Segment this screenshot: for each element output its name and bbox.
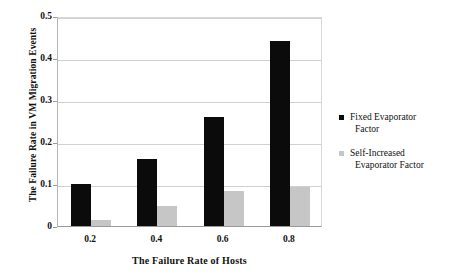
bar-self-increased-evaporator-factor bbox=[290, 187, 310, 226]
y-tick-label: 0.2 bbox=[26, 137, 52, 147]
legend-swatch-icon bbox=[339, 151, 344, 156]
legend-swatch-icon bbox=[339, 115, 344, 120]
y-tick-mark bbox=[53, 227, 57, 228]
y-tick-label: 0.4 bbox=[26, 53, 52, 63]
legend: Fixed EvaporatorFactorSelf-IncreasedEvap… bbox=[339, 112, 459, 184]
x-tick-label: 0.6 bbox=[193, 234, 253, 244]
legend-label: Fixed EvaporatorFactor bbox=[350, 112, 459, 135]
bar-chart: The Failure Rate in VM Migration Events … bbox=[0, 0, 462, 278]
x-tick-label: 0.4 bbox=[126, 234, 186, 244]
bar-self-increased-evaporator-factor bbox=[224, 191, 244, 226]
bar-self-increased-evaporator-factor bbox=[91, 220, 111, 226]
y-tick-label: 0.5 bbox=[26, 11, 52, 21]
x-tick-label: 0.8 bbox=[259, 234, 319, 244]
legend-label-line1: Fixed Evaporator bbox=[350, 112, 416, 122]
x-tick-label: 0.2 bbox=[60, 234, 120, 244]
bar-fixed-evaporator-factor bbox=[204, 117, 224, 226]
y-tick-label: 0 bbox=[26, 221, 52, 231]
legend-entry: Self-IncreasedEvaporator Factor bbox=[339, 148, 459, 171]
bar-group bbox=[191, 18, 257, 226]
bar-group bbox=[124, 18, 190, 226]
legend-label-line2: Factor bbox=[350, 124, 459, 136]
y-tick-label: 0.1 bbox=[26, 179, 52, 189]
bar-group bbox=[58, 18, 124, 226]
bar-self-increased-evaporator-factor bbox=[157, 206, 177, 226]
bar-group bbox=[257, 18, 323, 226]
y-axis-title: The Failure Rate in VM Migration Events bbox=[28, 5, 38, 225]
legend-label-line2: Evaporator Factor bbox=[350, 160, 459, 172]
legend-label: Self-IncreasedEvaporator Factor bbox=[350, 148, 459, 171]
x-axis-title: The Failure Rate of Hosts bbox=[57, 255, 322, 266]
bar-fixed-evaporator-factor bbox=[71, 184, 91, 226]
y-tick-label: 0.3 bbox=[26, 95, 52, 105]
bar-fixed-evaporator-factor bbox=[270, 41, 290, 226]
plot-area bbox=[57, 17, 322, 227]
legend-entry: Fixed EvaporatorFactor bbox=[339, 112, 459, 135]
bar-fixed-evaporator-factor bbox=[137, 159, 157, 226]
legend-label-line1: Self-Increased bbox=[350, 148, 405, 158]
